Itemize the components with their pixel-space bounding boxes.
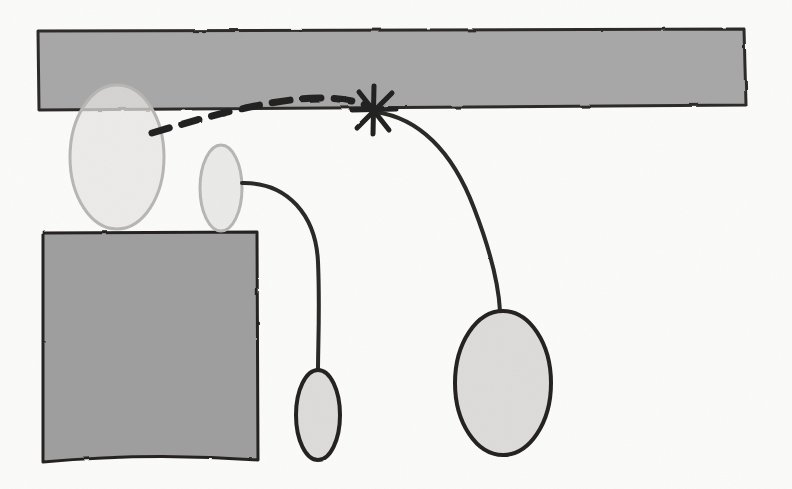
paper-grain-overlay bbox=[0, 0, 792, 489]
hand-drawn-figure bbox=[0, 0, 792, 489]
diagram-page: the equation of the radiusby yieldsmonei… bbox=[0, 0, 792, 489]
